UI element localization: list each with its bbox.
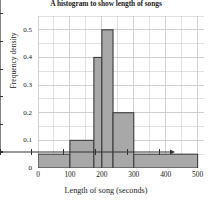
x-axis-tick-labels: 0100200300400500 [38, 170, 204, 182]
y-tick-label: 0.1 [23, 136, 32, 144]
histogram-chart: A histogram to show length of songs 00.1… [0, 0, 212, 202]
x-tick-label: 400 [160, 170, 171, 179]
y-tick-label: 0 [29, 164, 33, 172]
x-tick-label: 300 [128, 170, 139, 179]
y-tick-label: 0.3 [23, 81, 32, 89]
x-tick-label: 200 [96, 170, 107, 179]
y-tick-label: 0.4 [23, 53, 32, 61]
y-axis-label: Frequency density [9, 7, 18, 115]
x-tick-label: 100 [64, 170, 75, 179]
x-tick-label: 0 [36, 170, 40, 179]
y-tick-label: 0.2 [23, 109, 32, 117]
x-tick-label: 500 [192, 170, 203, 179]
y-tick-label: 0.5 [23, 26, 32, 34]
x-axis-label: Length of song (seconds) [0, 186, 212, 195]
